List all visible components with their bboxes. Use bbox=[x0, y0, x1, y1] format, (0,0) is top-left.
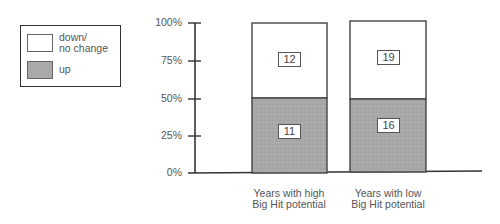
bar-low-up bbox=[350, 99, 426, 172]
value-label-low-up: 16 bbox=[377, 118, 400, 133]
value-label-high-up: 11 bbox=[278, 124, 301, 139]
x-axis-baseline bbox=[188, 171, 482, 173]
category-label-low-line2: Big Hit potential bbox=[351, 198, 425, 210]
value-label-low-down: 19 bbox=[377, 50, 400, 65]
category-label-high: Years with high Big Hit potential bbox=[234, 188, 344, 210]
category-label-high-line2: Big Hit potential bbox=[252, 198, 326, 210]
y-tick-label-50: 50% bbox=[142, 92, 182, 104]
y-tick-label-25: 25% bbox=[142, 129, 182, 141]
y-tick-label-100: 100% bbox=[142, 16, 182, 28]
category-label-low: Years with low Big Hit potential bbox=[333, 188, 443, 210]
y-tick-label-0: 0% bbox=[142, 166, 182, 178]
value-label-high-down: 12 bbox=[278, 52, 301, 67]
y-tick-label-75: 75% bbox=[142, 54, 182, 66]
